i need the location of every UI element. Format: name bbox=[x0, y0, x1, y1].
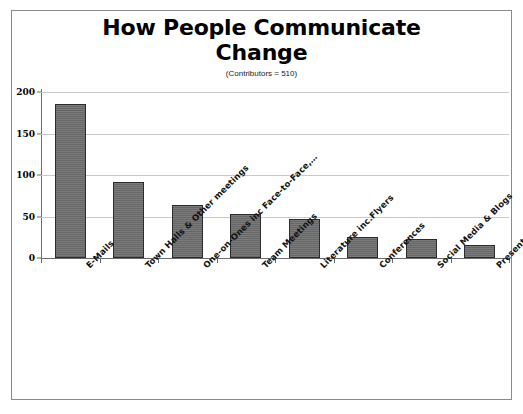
x-axis-category-label: Town Halls & Other meetings bbox=[143, 263, 150, 270]
x-axis-category-label: Presentations & Briefings bbox=[494, 263, 501, 270]
bar-slot bbox=[275, 92, 334, 258]
bar-slot bbox=[334, 92, 393, 258]
bar-slot bbox=[217, 92, 276, 258]
chart-frame: How People Communicate Change (Contribut… bbox=[11, 10, 512, 400]
bar[interactable] bbox=[113, 182, 144, 258]
bar-slot bbox=[41, 92, 100, 258]
title-block: How People Communicate Change (Contribut… bbox=[12, 15, 511, 78]
plot-area: 050100150200 bbox=[41, 92, 509, 258]
bar-slot bbox=[100, 92, 159, 258]
chart-subtitle: (Contributors = 510) bbox=[12, 69, 511, 78]
y-axis-tick-label: 0 bbox=[29, 253, 35, 263]
bar-slot bbox=[158, 92, 217, 258]
bar-slot bbox=[392, 92, 451, 258]
y-axis-tick-label: 150 bbox=[16, 129, 35, 139]
y-axis-tick-label: 200 bbox=[16, 87, 35, 97]
bar[interactable] bbox=[464, 245, 495, 258]
x-axis-category-label: Literature inc.Flyers bbox=[318, 263, 325, 270]
y-axis-tick-label: 100 bbox=[16, 170, 35, 180]
chart-title: How People Communicate Change bbox=[12, 15, 511, 65]
y-axis-tick-label: 50 bbox=[22, 212, 35, 222]
x-axis-category-label: Team Meetings bbox=[260, 263, 267, 270]
x-axis-category-label: E-Mails bbox=[84, 263, 91, 270]
bar[interactable] bbox=[55, 104, 86, 258]
x-axis-category-label: One-on-Ones inc Face-to-Face,… bbox=[201, 263, 208, 270]
x-axis-category-label: Social Media & Blogs bbox=[435, 263, 442, 270]
x-axis-category-label: Conferences bbox=[377, 263, 384, 270]
x-axis-labels: E-MailsTown Halls & Other meetingsOne-on… bbox=[41, 263, 509, 393]
bars-layer bbox=[41, 92, 509, 258]
bar-slot bbox=[451, 92, 510, 258]
